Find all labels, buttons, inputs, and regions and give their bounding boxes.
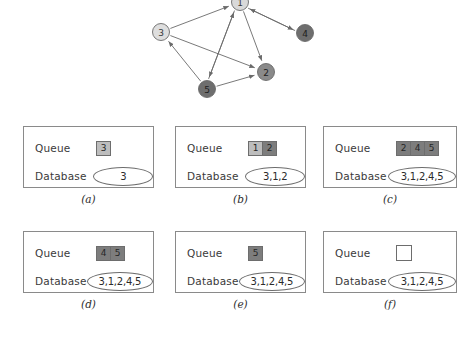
- queue-label-d: Queue: [24, 247, 96, 259]
- queue-cell-e-0: 5: [248, 246, 263, 261]
- panel-caption-a: (a): [23, 193, 154, 205]
- database-row-a: Database3: [24, 163, 153, 189]
- state-panel-f: QueueDatabase3,1,2,4,5: [323, 231, 457, 293]
- database-label-d: Database: [24, 275, 87, 287]
- edge-5-2: [217, 75, 255, 86]
- database-value-c: 3,1,2,4,5: [388, 167, 456, 186]
- state-panel-b: Queue12Database3,1,2: [175, 126, 306, 188]
- queue-label-f: Queue: [324, 247, 396, 259]
- queue-cells-f: [396, 245, 411, 261]
- queue-cell-d-1: 5: [110, 246, 125, 261]
- queue-cell-a-0: 3: [96, 141, 111, 156]
- edge-4-1: [250, 9, 295, 31]
- edge-3-1: [170, 6, 228, 28]
- database-row-f: Database3,1,2,4,5: [324, 268, 456, 294]
- queue-cell-b-0: 1: [248, 141, 263, 156]
- panel-caption-b: (b): [175, 193, 306, 205]
- state-panel-c: Queue245Database3,1,2,4,5: [323, 126, 457, 188]
- graph-node-label-5: 5: [204, 85, 210, 95]
- database-value-e: 3,1,2,4,5: [239, 272, 305, 291]
- database-label-f: Database: [324, 275, 388, 287]
- state-panel-e: Queue5Database3,1,2,4,5: [175, 231, 306, 293]
- graph-node-label-3: 3: [158, 28, 164, 38]
- state-panel-a: Queue3Database3: [23, 126, 154, 188]
- queue-label-c: Queue: [324, 142, 396, 154]
- queue-row-a: Queue3: [24, 135, 153, 161]
- database-value-f: 3,1,2,4,5: [388, 272, 456, 291]
- queue-cells-a: 3: [96, 141, 110, 156]
- queue-row-e: Queue5: [176, 240, 305, 266]
- database-value-d: 3,1,2,4,5: [87, 272, 153, 291]
- queue-cell-d-0: 4: [96, 246, 111, 261]
- graph-node-label-1: 1: [237, 0, 243, 8]
- database-label-b: Database: [176, 170, 245, 182]
- graph-edge-layer: [169, 6, 296, 86]
- database-row-e: Database3,1,2,4,5: [176, 268, 305, 294]
- queue-cells-d: 45: [96, 246, 124, 261]
- graph-node-label-4: 4: [302, 29, 308, 39]
- queue-row-b: Queue12: [176, 135, 305, 161]
- queue-cell-f-0: [396, 245, 412, 261]
- database-row-b: Database3,1,2: [176, 163, 305, 189]
- state-panel-d: Queue45Database3,1,2,4,5: [23, 231, 154, 293]
- panel-caption-c: (c): [323, 193, 457, 205]
- panel-caption-d: (d): [23, 298, 154, 310]
- database-value-a: 3: [93, 167, 153, 186]
- database-row-d: Database3,1,2,4,5: [24, 268, 153, 294]
- queue-cell-c-2: 5: [424, 141, 439, 156]
- database-value-b: 3,1,2: [245, 167, 305, 186]
- database-label-e: Database: [176, 275, 239, 287]
- graph-node-label-2: 2: [263, 68, 269, 78]
- panel-caption-e: (e): [175, 298, 306, 310]
- queue-label-b: Queue: [176, 142, 248, 154]
- graph-diagram: 13425: [0, 0, 476, 115]
- panel-caption-f: (f): [323, 298, 457, 310]
- queue-label-e: Queue: [176, 247, 248, 259]
- queue-row-f: Queue: [324, 240, 456, 266]
- queue-cells-c: 245: [396, 141, 438, 156]
- queue-cell-c-1: 4: [410, 141, 425, 156]
- edge-5-3: [169, 41, 201, 81]
- database-row-c: Database3,1,2,4,5: [324, 163, 456, 189]
- edge-5-1: [209, 12, 234, 78]
- database-label-a: Database: [24, 170, 93, 182]
- queue-cells-b: 12: [248, 141, 276, 156]
- queue-cell-b-1: 2: [262, 141, 277, 156]
- queue-cell-c-0: 2: [396, 141, 411, 156]
- edge-3-2: [170, 36, 254, 68]
- edge-1-2: [243, 11, 261, 60]
- queue-cells-e: 5: [248, 246, 262, 261]
- queue-label-a: Queue: [24, 142, 96, 154]
- database-label-c: Database: [324, 170, 388, 182]
- queue-row-d: Queue45: [24, 240, 153, 266]
- queue-row-c: Queue245: [324, 135, 456, 161]
- graph-svg: 13425: [0, 0, 476, 115]
